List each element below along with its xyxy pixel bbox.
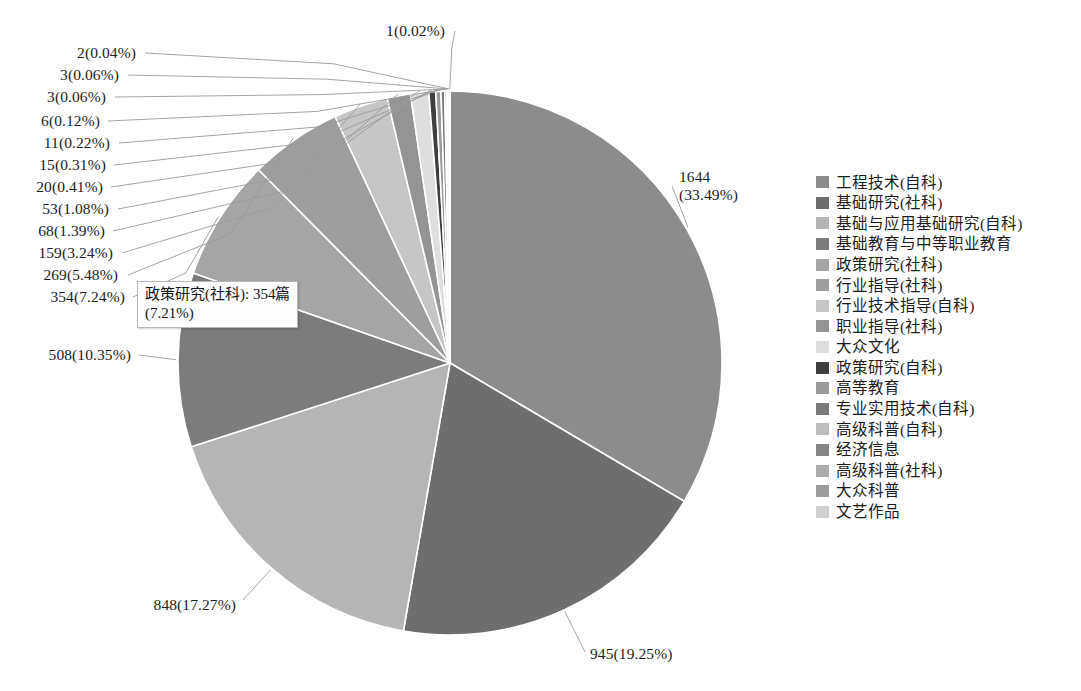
legend-item[interactable]: 工程技术(自科): [816, 172, 1022, 193]
legend-item[interactable]: 政策研究(自科): [816, 357, 1022, 378]
legend-item-label: 高等教育: [836, 380, 900, 396]
legend-item[interactable]: 基础与应用基础研究(自科): [816, 213, 1022, 234]
tooltip-line-2: (7.21%): [145, 304, 290, 323]
leader-line: [565, 612, 585, 652]
legend-swatch-icon: [816, 279, 829, 291]
slice-label-6: 159(3.24%): [38, 244, 113, 262]
legend-swatch-icon: [816, 259, 829, 271]
tooltip-line-1: 政策研究(社科): 354篇: [145, 285, 290, 304]
legend-item[interactable]: 大众文化: [816, 337, 1022, 358]
legend-item-label: 专业实用技术(自科): [836, 401, 974, 417]
legend-item[interactable]: 行业技术指导(自科): [816, 296, 1022, 317]
legend-swatch-icon: [816, 403, 829, 415]
legend-item-label: 高级科普(社科): [836, 463, 942, 479]
legend-item[interactable]: 文艺作品: [816, 502, 1022, 523]
legend-swatch-icon: [816, 238, 829, 250]
slice-label-3: 508(10.35%): [49, 346, 131, 364]
legend-item[interactable]: 高级科普(自科): [816, 419, 1022, 440]
legend-swatch-icon: [816, 300, 829, 312]
slice-label-14: 3(0.06%): [60, 66, 119, 84]
slice-label-2: 848(17.27%): [154, 596, 236, 614]
legend-swatch-icon: [816, 382, 829, 394]
legend-item-label: 基础与应用基础研究(自科): [836, 216, 1022, 232]
leader-line: [450, 31, 455, 89]
slice-label-9: 20(0.41%): [36, 178, 103, 196]
leader-line: [128, 75, 448, 89]
slice-label-11: 11(0.22%): [44, 134, 110, 152]
legend-swatch-icon: [816, 320, 829, 332]
legend-item-label: 政策研究(自科): [836, 360, 942, 376]
pie-slices-group[interactable]: [178, 91, 722, 635]
leader-line: [139, 355, 176, 360]
slice-label-13: 3(0.06%): [47, 88, 106, 106]
slice-label-0-line1: 1644: [679, 168, 738, 186]
legend-item-label: 基础研究(社科): [836, 195, 942, 211]
legend-item-label: 大众科普: [836, 483, 900, 499]
slice-label-16: 1(0.02%): [386, 22, 445, 40]
slice-label-10: 15(0.31%): [39, 156, 106, 174]
legend-item[interactable]: 职业指导(社科): [816, 316, 1022, 337]
legend-item-label: 工程技术(自科): [836, 175, 942, 191]
legend-item-label: 基础教育与中等职业教育: [836, 236, 1012, 252]
chart-legend[interactable]: 工程技术(自科)基础研究(社科)基础与应用基础研究(自科)基础教育与中等职业教育…: [816, 172, 1022, 522]
legend-item[interactable]: 经济信息: [816, 440, 1022, 461]
legend-swatch-icon: [816, 176, 829, 188]
legend-item-label: 经济信息: [836, 442, 900, 458]
legend-item-label: 行业技术指导(自科): [836, 298, 974, 314]
leader-line: [145, 53, 449, 89]
slice-label-5: 269(5.48%): [43, 266, 118, 284]
legend-swatch-icon: [816, 506, 829, 518]
pie-chart-page: 1644 (33.49%) 945(19.25%) 848(17.27%) 50…: [0, 0, 1081, 691]
legend-swatch-icon: [816, 362, 829, 374]
legend-swatch-icon: [816, 197, 829, 209]
legend-swatch-icon: [816, 217, 829, 229]
slice-label-0: 1644 (33.49%): [679, 168, 738, 205]
legend-item[interactable]: 高等教育: [816, 378, 1022, 399]
legend-item-label: 职业指导(社科): [836, 319, 942, 335]
legend-item[interactable]: 行业指导(社科): [816, 275, 1022, 296]
legend-item-label: 行业指导(社科): [836, 278, 942, 294]
legend-swatch-icon: [816, 485, 829, 497]
slice-label-8: 53(1.08%): [42, 200, 109, 218]
legend-swatch-icon: [816, 341, 829, 353]
legend-item-label: 文艺作品: [836, 504, 900, 520]
slice-tooltip: 政策研究(社科): 354篇 (7.21%): [137, 281, 298, 328]
legend-swatch-icon: [816, 423, 829, 435]
legend-item[interactable]: 基础研究(社科): [816, 193, 1022, 214]
slice-label-1: 945(19.25%): [590, 645, 672, 663]
leader-line: [243, 570, 270, 600]
legend-swatch-icon: [816, 465, 829, 477]
slice-label-12: 6(0.12%): [41, 112, 100, 130]
slice-label-0-line2: (33.49%): [679, 186, 738, 204]
legend-item[interactable]: 高级科普(社科): [816, 460, 1022, 481]
legend-item[interactable]: 大众科普: [816, 481, 1022, 502]
legend-item[interactable]: 政策研究(社科): [816, 254, 1022, 275]
slice-label-4: 354(7.24%): [50, 288, 125, 306]
legend-item[interactable]: 基础教育与中等职业教育: [816, 234, 1022, 255]
legend-swatch-icon: [816, 444, 829, 456]
legend-item-label: 大众文化: [836, 339, 900, 355]
legend-item[interactable]: 专业实用技术(自科): [816, 399, 1022, 420]
slice-label-15: 2(0.04%): [77, 44, 136, 62]
legend-item-label: 政策研究(社科): [836, 257, 942, 273]
slice-label-7: 68(1.39%): [38, 222, 105, 240]
legend-item-label: 高级科普(自科): [836, 422, 942, 438]
